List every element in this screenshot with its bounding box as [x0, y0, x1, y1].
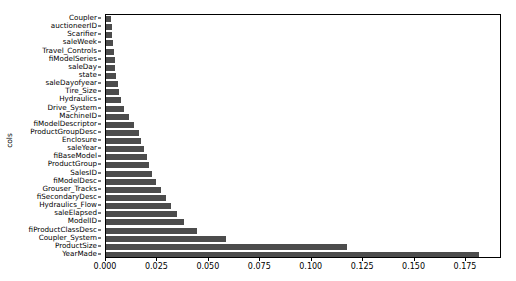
y-tick-mark	[98, 221, 101, 222]
bar-row	[106, 171, 501, 177]
bar	[106, 114, 129, 120]
bar	[106, 171, 152, 177]
bar-row	[106, 211, 501, 217]
bar	[106, 162, 149, 168]
bar-row	[106, 130, 501, 136]
bar-row	[106, 106, 501, 112]
bar	[106, 138, 141, 144]
bar	[106, 73, 116, 79]
x-tick-mark	[105, 258, 106, 261]
y-tick-mark	[98, 156, 101, 157]
bar-row	[106, 228, 501, 234]
x-tick-mark	[208, 258, 209, 261]
y-tick-mark	[98, 26, 101, 27]
bar-row	[106, 81, 501, 87]
x-tick-label: 0.150	[402, 262, 425, 271]
x-tick-label: 0.100	[299, 262, 322, 271]
bar-row	[106, 252, 501, 258]
bar-row	[106, 146, 501, 152]
y-tick-mark	[98, 131, 101, 132]
bar-row	[106, 187, 501, 193]
bar	[106, 219, 184, 225]
y-tick-mark	[98, 123, 101, 124]
bar-row	[106, 138, 501, 144]
y-tick-mark	[98, 188, 101, 189]
y-tick-mark	[98, 205, 101, 206]
y-tick-label: YearMade	[62, 250, 97, 258]
plot-area	[105, 14, 501, 258]
x-tick-mark	[362, 258, 363, 261]
bar	[106, 97, 121, 103]
bar	[106, 81, 118, 87]
x-tick-mark	[311, 258, 312, 261]
bar-row	[106, 236, 501, 242]
bar-row	[106, 97, 501, 103]
bar	[106, 187, 161, 193]
bar-row	[106, 122, 501, 128]
bar-row	[106, 195, 501, 201]
bar	[106, 203, 171, 209]
bar	[106, 130, 139, 136]
y-tick-mark	[98, 66, 101, 67]
bar	[106, 195, 166, 201]
y-tick-mark	[98, 245, 101, 246]
x-tick-label: 0.025	[145, 262, 168, 271]
y-tick-mark	[98, 42, 101, 43]
bar	[106, 211, 177, 217]
bar	[106, 106, 124, 112]
bar-row	[106, 162, 501, 168]
x-tick-label: 0.050	[196, 262, 219, 271]
bar-row	[106, 244, 501, 250]
y-tick-mark	[98, 180, 101, 181]
bar-series	[106, 15, 500, 257]
bar-row	[106, 24, 501, 30]
bar	[106, 146, 144, 152]
bar-row	[106, 179, 501, 185]
y-tick-mark	[98, 75, 101, 76]
bar	[106, 24, 112, 30]
y-tick-mark	[98, 18, 101, 19]
bar-row	[106, 154, 501, 160]
bar	[106, 16, 111, 22]
figure: cols CouplerauctioneerIDScarifiersaleWee…	[0, 0, 516, 281]
bar-row	[106, 203, 501, 209]
bar	[106, 236, 226, 242]
bar-row	[106, 16, 501, 22]
x-tick-mark	[465, 258, 466, 261]
x-tick-mark	[259, 258, 260, 261]
x-tick-mark	[414, 258, 415, 261]
x-tick-mark	[156, 258, 157, 261]
bar	[106, 252, 479, 258]
bar-row	[106, 57, 501, 63]
y-tick-mark	[98, 99, 101, 100]
y-tick-mark	[98, 237, 101, 238]
bar-row	[106, 114, 501, 120]
y-tick-mark	[98, 172, 101, 173]
bar-row	[106, 89, 501, 95]
y-tick-mark	[98, 148, 101, 149]
y-tick-mark	[98, 58, 101, 59]
bar-row	[106, 73, 501, 79]
bar	[106, 179, 156, 185]
x-tick-label: 0.175	[454, 262, 477, 271]
y-tick-mark	[98, 197, 101, 198]
bar	[106, 154, 147, 160]
x-tick-label: 0.000	[94, 262, 117, 271]
y-tick-mark	[98, 253, 101, 254]
bar-row	[106, 40, 501, 46]
bar-row	[106, 219, 501, 225]
bar	[106, 89, 119, 95]
y-axis-tick-labels: CouplerauctioneerIDScarifiersaleWeekTrav…	[0, 14, 101, 258]
bar	[106, 244, 347, 250]
bar	[106, 49, 114, 55]
y-tick-mark	[98, 229, 101, 230]
y-tick-mark	[98, 91, 101, 92]
bar-row	[106, 65, 501, 71]
bar	[106, 122, 134, 128]
y-tick-mark	[98, 34, 101, 35]
y-tick-mark	[98, 140, 101, 141]
y-tick-mark	[98, 213, 101, 214]
bar	[106, 228, 197, 234]
bar	[106, 40, 113, 46]
y-tick-mark	[98, 107, 101, 108]
